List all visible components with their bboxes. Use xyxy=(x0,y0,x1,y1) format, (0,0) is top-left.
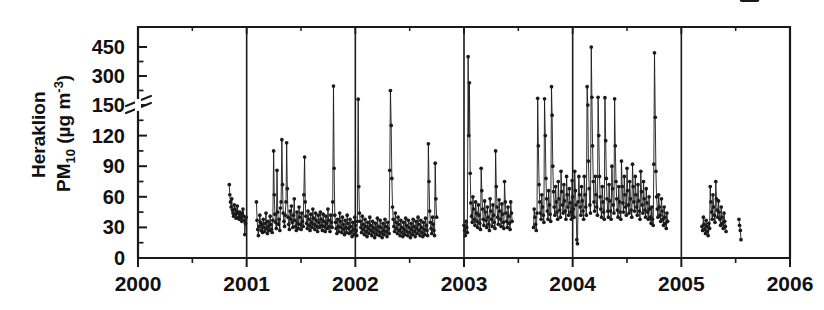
data-point xyxy=(480,189,484,193)
data-point xyxy=(348,217,352,221)
data-point xyxy=(580,185,584,189)
data-point xyxy=(585,213,589,217)
data-point xyxy=(559,215,563,219)
data-point xyxy=(501,220,505,224)
data-point xyxy=(425,229,429,233)
data-point xyxy=(268,214,272,218)
data-point xyxy=(538,200,542,204)
data-point xyxy=(373,221,377,225)
data-point xyxy=(373,236,377,240)
data-point xyxy=(574,203,578,207)
data-point xyxy=(663,215,667,219)
data-point xyxy=(636,183,640,187)
data-point xyxy=(332,84,336,88)
data-point xyxy=(261,217,265,221)
data-point xyxy=(241,207,245,211)
data-point xyxy=(380,236,384,240)
data-point xyxy=(605,177,609,181)
data-point xyxy=(706,230,710,234)
data-point xyxy=(582,217,586,221)
data-point xyxy=(287,222,291,226)
data-point xyxy=(338,219,342,223)
data-point xyxy=(483,210,487,214)
data-point xyxy=(353,224,357,228)
data-point xyxy=(595,205,599,209)
data-point xyxy=(497,198,501,202)
data-point xyxy=(474,200,478,204)
data-point xyxy=(502,227,506,231)
data-point xyxy=(707,221,711,225)
data-point xyxy=(297,205,301,209)
data-point xyxy=(554,185,558,189)
data-point xyxy=(491,203,495,207)
data-point xyxy=(493,227,497,231)
data-point xyxy=(609,209,613,213)
data-point xyxy=(631,162,635,166)
data-point xyxy=(615,197,619,201)
data-point xyxy=(316,230,320,234)
data-point xyxy=(277,217,281,221)
data-point xyxy=(554,200,558,204)
data-point xyxy=(363,217,367,221)
data-point xyxy=(285,141,289,145)
data-point xyxy=(622,175,626,179)
data-point xyxy=(487,222,491,226)
data-point xyxy=(258,213,262,217)
data-point xyxy=(644,187,648,191)
data-point xyxy=(270,228,274,232)
pm10-timeseries-chart: Heraklion PM10 (µg m-3) 0306090120150300… xyxy=(0,0,824,310)
data-point xyxy=(610,164,614,168)
ylabel-mid: (µg m xyxy=(53,93,74,149)
data-point xyxy=(311,207,315,211)
data-point xyxy=(630,215,634,219)
data-point xyxy=(713,213,717,217)
data-point xyxy=(665,211,669,215)
data-point xyxy=(274,227,278,231)
data-point xyxy=(713,220,717,224)
data-point xyxy=(714,180,718,184)
data-point xyxy=(589,211,593,215)
data-point xyxy=(426,234,430,238)
data-point xyxy=(717,210,721,214)
data-point xyxy=(503,200,507,204)
data-point xyxy=(283,225,287,229)
data-point xyxy=(578,193,582,197)
data-point xyxy=(255,218,259,222)
data-point xyxy=(542,220,546,224)
data-point xyxy=(469,201,473,205)
data-point xyxy=(660,197,664,201)
data-point xyxy=(627,211,631,215)
axis-break-gap xyxy=(135,99,141,111)
data-point xyxy=(566,205,570,209)
data-point xyxy=(642,180,646,184)
data-point xyxy=(565,193,569,197)
data-point xyxy=(613,97,617,101)
data-point xyxy=(599,207,603,211)
data-point xyxy=(510,219,514,223)
data-point xyxy=(556,180,560,184)
data-point xyxy=(427,142,431,146)
data-point xyxy=(584,205,588,209)
x-tick-label-2003: 2003 xyxy=(441,272,488,295)
data-point xyxy=(264,211,268,215)
data-point xyxy=(360,214,364,218)
data-point xyxy=(540,193,544,197)
data-point xyxy=(280,138,284,142)
data-point xyxy=(433,161,437,165)
data-point xyxy=(534,229,538,233)
data-point xyxy=(625,166,629,170)
data-point xyxy=(574,189,578,193)
data-point xyxy=(706,234,710,238)
data-point xyxy=(435,215,439,219)
data-point xyxy=(414,219,418,223)
data-point xyxy=(548,212,552,216)
data-point xyxy=(494,185,498,189)
data-point xyxy=(626,189,630,193)
data-point xyxy=(563,199,567,203)
data-point xyxy=(470,220,474,224)
data-point xyxy=(467,134,471,138)
data-point xyxy=(492,220,496,224)
data-point xyxy=(244,221,248,225)
data-point xyxy=(464,219,468,223)
data-point xyxy=(635,205,639,209)
